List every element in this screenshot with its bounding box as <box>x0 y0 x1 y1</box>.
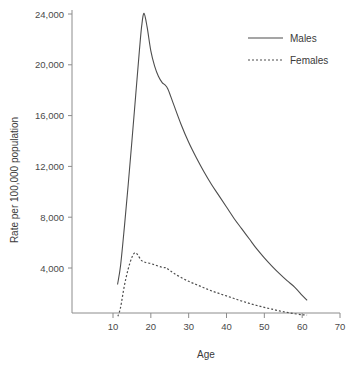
legend-label-males: Males <box>290 33 317 44</box>
y-tick-label: 8,000 <box>40 212 64 223</box>
x-tick-label: 70 <box>335 321 346 332</box>
legend-label-females: Females <box>290 55 328 66</box>
y-tick-label: 24,000 <box>35 9 64 20</box>
line-chart: 4,0008,00012,00016,00020,00024,000 10203… <box>0 0 350 367</box>
y-tick-label: 4,000 <box>40 263 64 274</box>
y-axis-title: Rate per 100,000 population <box>9 117 20 243</box>
series-line-females <box>118 253 307 317</box>
x-tick-label: 10 <box>108 321 119 332</box>
chart-legend: MalesFemales <box>248 33 328 66</box>
x-tick-label: 30 <box>183 321 194 332</box>
x-tick-label: 40 <box>221 321 232 332</box>
y-axis-ticks: 4,0008,00012,00016,00020,00024,000 <box>35 9 72 274</box>
y-tick-label: 12,000 <box>35 161 64 172</box>
series-line-males <box>118 13 308 300</box>
y-tick-label: 20,000 <box>35 59 64 70</box>
y-tick-label: 16,000 <box>35 110 64 121</box>
x-tick-label: 20 <box>146 321 157 332</box>
x-tick-label: 50 <box>259 321 270 332</box>
chart-container: 4,0008,00012,00016,00020,00024,000 10203… <box>0 0 350 367</box>
x-axis-title: Age <box>197 349 215 360</box>
x-tick-label: 60 <box>297 321 308 332</box>
x-axis-ticks: 10203040506070 <box>108 313 346 332</box>
data-series-group <box>118 13 308 316</box>
